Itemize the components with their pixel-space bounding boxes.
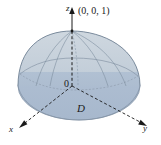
origin-label: 0 [64,79,69,89]
apex-point-marker [71,30,74,33]
figure-container: z (0, 0, 1) 0 D x y [0,0,161,145]
y-axis-label: y [143,124,147,133]
region-d-label: D [77,103,85,114]
apex-point-label: (0, 0, 1) [78,6,110,16]
solid-dome-diagram [0,0,161,145]
z-axis-label: z [66,4,70,13]
x-axis-label: x [9,125,13,134]
